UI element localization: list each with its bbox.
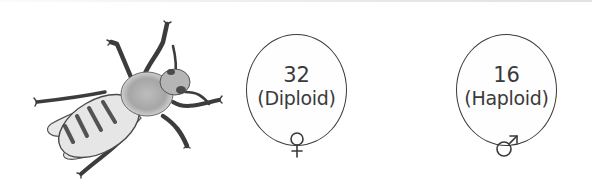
male-chromosome-circle: 16 (Haploid) bbox=[456, 34, 557, 146]
top-divider bbox=[0, 0, 592, 2]
male-ploidy-label: (Haploid) bbox=[464, 87, 548, 110]
female-symbol-icon bbox=[282, 130, 312, 160]
male-symbol-icon bbox=[492, 131, 522, 161]
male-chromosome-count: 16 bbox=[493, 64, 520, 87]
bee-illustration-icon bbox=[25, 20, 225, 180]
female-ploidy-label: (Diploid) bbox=[257, 87, 335, 110]
female-chromosome-count: 32 bbox=[283, 64, 310, 87]
